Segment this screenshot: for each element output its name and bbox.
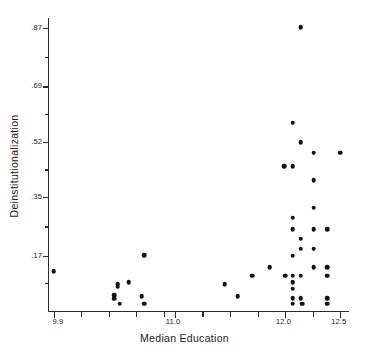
data-point (139, 294, 144, 299)
data-point (312, 150, 317, 155)
data-point (115, 284, 120, 289)
data-point (283, 274, 288, 279)
data-point (235, 294, 240, 299)
data-point (112, 296, 117, 301)
data-point (325, 274, 330, 279)
x-axis-tick (313, 312, 314, 317)
data-point (291, 280, 296, 285)
x-axis-tick-label: 11.0 (166, 318, 180, 326)
x-axis-tick (81, 312, 82, 317)
data-point (312, 178, 317, 183)
y-axis-tick-label: .35 (31, 193, 42, 201)
x-axis-tick-label: 12.0 (276, 318, 291, 326)
x-axis-tick (202, 312, 203, 317)
data-point (291, 302, 296, 307)
y-axis-tick-label: .87 (31, 24, 42, 32)
data-point (126, 280, 131, 285)
data-point (312, 246, 317, 251)
x-axis-tick-label: 12.5 (331, 318, 346, 326)
data-point (325, 296, 330, 301)
y-axis-tick-label: .69 (31, 82, 42, 90)
x-axis-tick (230, 312, 231, 317)
data-point (291, 287, 296, 292)
x-axis-title: Median Education (0, 332, 369, 344)
x-axis-tick (136, 312, 137, 317)
data-point (301, 302, 306, 307)
data-point (298, 25, 303, 30)
x-axis-tick (258, 312, 259, 317)
data-point (291, 296, 296, 301)
data-point (298, 274, 303, 279)
data-point (291, 215, 296, 220)
x-axis-tick (109, 312, 110, 317)
data-point (291, 274, 296, 279)
data-point (51, 269, 56, 274)
data-point (142, 302, 147, 307)
data-point (267, 265, 272, 270)
data-point (291, 121, 296, 126)
y-axis-tick-label: .52 (31, 138, 42, 146)
data-point (312, 205, 317, 210)
data-point (325, 302, 330, 307)
data-point (312, 227, 317, 232)
y-axis-tick-label: .17 (31, 252, 42, 260)
data-point (291, 227, 296, 232)
data-point (298, 140, 303, 145)
data-point (312, 265, 317, 270)
data-point (142, 253, 147, 258)
data-point (298, 246, 303, 251)
data-point (338, 150, 343, 155)
data-point (291, 164, 296, 169)
data-point (298, 236, 303, 241)
data-point (325, 227, 330, 232)
data-point (325, 265, 330, 270)
data-point (291, 253, 296, 258)
data-point (298, 296, 303, 301)
data-point (117, 302, 122, 307)
y-axis-title: Deinstitutionalization (8, 66, 20, 266)
scatter-plot-figure: .17.35.52.69.879.911.012.012.5 Median Ed… (0, 0, 369, 361)
x-axis-tick (164, 312, 165, 317)
data-point (222, 282, 227, 287)
x-axis-tick-label: 9.9 (53, 318, 64, 326)
data-point (250, 274, 255, 279)
data-point (282, 164, 287, 169)
plot-data-area (48, 18, 348, 312)
